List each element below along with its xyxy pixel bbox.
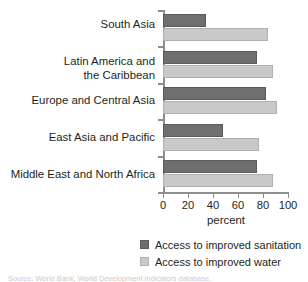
legend-item-sanitation: Access to improved sanitation (140, 236, 308, 253)
bar-sanitation (163, 87, 266, 100)
category-label-south-asia: South Asia (0, 18, 155, 32)
category-label-line2: the Caribbean (0, 69, 155, 83)
chart-legend: Access to improved sanitation Access to … (140, 236, 308, 270)
x-axis-tick (163, 193, 164, 198)
x-axis-tick-label: 80 (257, 199, 269, 211)
category-label-line1: Europe and Central Asia (0, 94, 155, 108)
bar-water (163, 101, 277, 114)
category-label-line1: East Asia and Pacific (0, 131, 155, 145)
plot-area (163, 10, 288, 192)
bar-sanitation (163, 14, 206, 27)
bar-sanitation (163, 51, 257, 64)
x-axis-tick-label: 60 (232, 199, 244, 211)
x-axis-tick (263, 193, 264, 198)
x-axis-tick-label: 40 (207, 199, 219, 211)
legend-label: Access to improved sanitation (155, 239, 301, 251)
category-label-latin-america-and-the-caribbean: Latin America and the Caribbean (0, 55, 155, 82)
x-axis-tick (288, 193, 289, 198)
bar-sanitation (163, 124, 223, 137)
x-axis-tick-label: 100 (279, 199, 298, 211)
legend-label: Access to improved water (155, 256, 281, 268)
category-label-line1: Latin America and (0, 55, 155, 69)
x-axis-tick-label: 20 (182, 199, 194, 211)
legend-swatch-icon (140, 240, 149, 249)
bar-water (163, 65, 273, 78)
bar-water (163, 174, 273, 187)
x-axis-tick (213, 193, 214, 198)
x-axis-tick (238, 193, 239, 198)
bar-water (163, 28, 268, 41)
source-note: Source: World Bank, World Development In… (8, 274, 308, 282)
bar-water (163, 138, 259, 151)
category-label-middle-east-and-north-africa: Middle East and North Africa (0, 168, 155, 182)
x-axis-title: percent (163, 214, 289, 226)
x-axis-line (163, 192, 289, 194)
x-axis-tick (188, 193, 189, 198)
bar-chart: South Asia Latin America and the Caribbe… (0, 0, 308, 282)
x-axis-tick-label: 0 (160, 199, 166, 211)
legend-swatch-icon (140, 257, 149, 266)
legend-item-water: Access to improved water (140, 253, 308, 270)
category-label-line1: Middle East and North Africa (0, 168, 155, 182)
category-label-europe-and-central-asia: Europe and Central Asia (0, 94, 155, 108)
category-label-line1: South Asia (0, 18, 155, 32)
category-label-east-asia-and-pacific: East Asia and Pacific (0, 131, 155, 145)
bar-sanitation (163, 160, 257, 173)
